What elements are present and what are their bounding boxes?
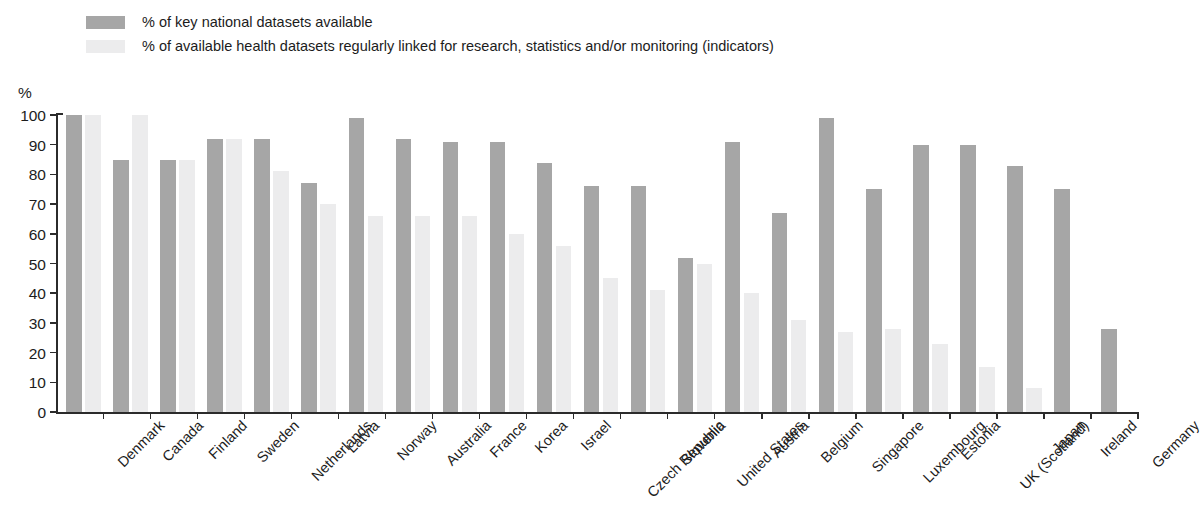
bar-key-datasets: [113, 160, 129, 412]
y-axis-tick: [50, 114, 56, 116]
bar-linked-datasets: [132, 115, 148, 412]
bar-group: [866, 115, 901, 412]
bar-linked-datasets: [179, 160, 195, 412]
bar-key-datasets: [819, 118, 835, 412]
bar-group: [819, 115, 854, 412]
bar-linked-datasets: [1026, 388, 1042, 412]
bar-group: [113, 115, 148, 412]
y-axis-tick: [50, 263, 56, 265]
bar-key-datasets: [678, 258, 694, 412]
y-axis-tick-label: 90: [8, 138, 46, 153]
x-axis-label-finland: Finland: [206, 418, 250, 462]
x-axis-label-israel: Israel: [578, 418, 614, 454]
bar-key-datasets: [1101, 329, 1117, 412]
bar-group: [678, 115, 713, 412]
bar-series-container: [56, 115, 1138, 412]
bar-linked-datasets: [838, 332, 854, 412]
legend-item: % of available health datasets regularly…: [86, 34, 986, 58]
y-axis-tick-label: 50: [8, 257, 46, 272]
y-axis-tick: [50, 382, 56, 384]
bar-key-datasets: [207, 139, 223, 412]
bar-group: [772, 115, 807, 412]
x-axis-label-canada: Canada: [159, 418, 206, 465]
y-axis-tick-label: 70: [8, 197, 46, 212]
bar-key-datasets: [631, 186, 647, 412]
bar-linked-datasets: [368, 216, 384, 412]
y-axis-tick-label: 20: [8, 346, 46, 361]
bar-key-datasets: [490, 142, 506, 412]
bar-group: [301, 115, 336, 412]
bar-key-datasets: [725, 142, 741, 412]
bar-group: [631, 115, 666, 412]
x-axis-label-australia: Australia: [443, 418, 494, 469]
bar-group: [960, 115, 995, 412]
bar-key-datasets: [913, 145, 929, 412]
x-axis-label-singapore: Singapore: [870, 418, 927, 475]
y-axis-tick-label: 80: [8, 167, 46, 182]
y-axis-tick: [50, 144, 56, 146]
bar-key-datasets: [66, 115, 82, 412]
legend-label-linked-datasets: % of available health datasets regularly…: [142, 38, 774, 54]
bar-linked-datasets: [273, 171, 289, 412]
x-axis-label-sweden: Sweden: [254, 418, 302, 466]
y-axis-tick-label: 30: [8, 316, 46, 331]
bar-linked-datasets: [885, 329, 901, 412]
chart-plot-area: 1009080706050403020100: [56, 115, 1138, 412]
bar-linked-datasets: [697, 264, 713, 413]
bar-group: [913, 115, 948, 412]
bar-group: [396, 115, 431, 412]
x-axis-label-france: France: [487, 418, 530, 461]
y-axis-tick: [50, 292, 56, 294]
x-axis-label-ireland: Ireland: [1098, 418, 1140, 460]
legend-swatch-linked-datasets: [86, 40, 125, 53]
x-axis-label-korea: Korea: [532, 418, 570, 456]
bar-group: [1007, 115, 1042, 412]
bar-group: [443, 115, 478, 412]
bar-linked-datasets: [791, 320, 807, 412]
bar-linked-datasets: [85, 115, 101, 412]
bar-group: [725, 115, 760, 412]
x-axis-label-slovenia: Slovenia: [678, 418, 728, 468]
legend-swatch-key-datasets: [86, 16, 125, 29]
bar-key-datasets: [396, 139, 412, 412]
bar-linked-datasets: [932, 344, 948, 412]
y-axis-tick: [50, 174, 56, 176]
bar-key-datasets: [254, 139, 270, 412]
x-axis-label-denmark: Denmark: [115, 418, 167, 470]
bar-group: [1101, 115, 1136, 412]
x-axis-label-norway: Norway: [394, 418, 439, 463]
bar-linked-datasets: [744, 293, 760, 412]
x-axis-label-latvia: Latvia: [344, 418, 382, 456]
x-axis-label-germany: Germany: [1150, 418, 1203, 471]
bar-key-datasets: [866, 189, 882, 412]
y-axis-tick: [50, 322, 56, 324]
bar-key-datasets: [301, 183, 317, 412]
legend-item: % of key national datasets available: [86, 10, 986, 34]
y-axis-tick-label: 40: [8, 286, 46, 301]
x-axis-category-labels: DenmarkCanadaFinlandSwedenNetherlandsLat…: [56, 418, 1159, 515]
y-axis-tick-label: 10: [8, 375, 46, 390]
bar-linked-datasets: [320, 204, 336, 412]
y-axis-tick: [50, 352, 56, 354]
y-axis-tick: [50, 233, 56, 235]
bar-linked-datasets: [556, 246, 572, 412]
y-axis-tick-label: 0: [8, 405, 46, 420]
bar-group: [537, 115, 572, 412]
bar-key-datasets: [960, 145, 976, 412]
bar-linked-datasets: [415, 216, 431, 412]
legend-label-key-datasets: % of key national datasets available: [142, 14, 373, 30]
bar-linked-datasets: [650, 290, 666, 412]
bar-linked-datasets: [979, 367, 995, 412]
bar-group: [207, 115, 242, 412]
bar-key-datasets: [443, 142, 459, 412]
bar-group: [349, 115, 384, 412]
y-axis-unit-label: %: [18, 84, 32, 102]
bar-group: [1054, 115, 1089, 412]
bar-linked-datasets: [226, 139, 242, 412]
bar-group: [66, 115, 101, 412]
bar-group: [490, 115, 525, 412]
bar-key-datasets: [1054, 189, 1070, 412]
bar-group: [160, 115, 195, 412]
bar-key-datasets: [584, 186, 600, 412]
bar-key-datasets: [537, 163, 553, 412]
